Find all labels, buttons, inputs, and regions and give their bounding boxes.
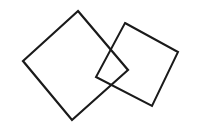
figure-container — [0, 0, 198, 132]
figure-background — [0, 0, 198, 132]
two-squares-drawing — [0, 0, 198, 132]
